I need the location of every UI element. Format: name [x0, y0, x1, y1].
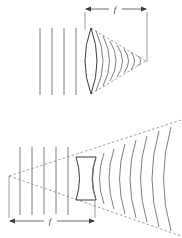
- diverging-wavefronts-bottom: [92, 127, 171, 231]
- wavefront-arc: [103, 36, 110, 86]
- ray-cone-bottom: [9, 120, 181, 236]
- focal-length-dimension-top: f: [85, 2, 147, 62]
- dimension-arrow-left-top: [85, 7, 91, 12]
- lens-surface-left-bottom: [76, 157, 80, 200]
- wavefront-arc: [152, 131, 159, 227]
- dimension-arrow-right-top: [141, 7, 147, 12]
- convex-lens-top: [85, 28, 97, 94]
- wavefront-arc: [109, 149, 114, 209]
- dimension-arrow-right-bottom: [89, 219, 95, 224]
- wavefront-arc: [117, 45, 123, 77]
- lens-surface-left-top: [85, 28, 91, 94]
- converging-lens-panel: f: [0, 0, 182, 119]
- converging-wavefronts-top: [96, 31, 141, 91]
- wavefront-arc: [110, 41, 116, 81]
- wavefront-arc: [164, 127, 172, 231]
- cone-edge-lower-top: [91, 61, 146, 94]
- dimension-arrow-left-bottom: [9, 219, 15, 224]
- wavefront-arc: [124, 49, 129, 73]
- optics-figure: f: [0, 0, 182, 238]
- concave-lens-bottom: [76, 157, 96, 200]
- wavefront-arc: [100, 153, 105, 204]
- wavefront-arc: [131, 52, 135, 70]
- diverging-lens-panel: f: [0, 119, 182, 238]
- plane-wavefronts-bottom: [20, 147, 68, 215]
- wavefront-arc: [141, 136, 148, 222]
- lens-surface-right-top: [91, 28, 97, 94]
- wavefront-arc: [120, 144, 126, 214]
- cone-edge-upper-top: [91, 28, 146, 61]
- plane-wavefronts-top: [40, 28, 76, 95]
- focal-length-dimension-bottom: f: [9, 176, 95, 226]
- wavefront-arc: [130, 140, 136, 218]
